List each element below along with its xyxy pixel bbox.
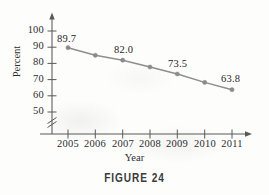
- x-tick-label-2005: 2005: [54, 138, 82, 149]
- percent-series-markers: [66, 46, 234, 92]
- data-point-2011: [230, 88, 234, 92]
- data-point-2007: [121, 58, 125, 62]
- data-label-2011: 63.8: [221, 73, 240, 84]
- y-axis-arrow-icon: [49, 13, 54, 20]
- figure-caption: FIGURE 24: [22, 171, 248, 185]
- data-label-2005: 89.7: [57, 33, 76, 44]
- y-tick-label-70: 70: [22, 73, 44, 84]
- y-tick-label-100: 100: [22, 24, 44, 35]
- y-tick-label-60: 60: [22, 89, 44, 100]
- y-tick-label-90: 90: [22, 40, 44, 51]
- x-tick-label-2010: 2010: [191, 138, 219, 149]
- x-tick-label-2009: 2009: [163, 138, 191, 149]
- x-tick-label-2011: 2011: [218, 138, 246, 149]
- data-label-2009: 73.5: [168, 58, 187, 69]
- y-tick-label-80: 80: [22, 56, 44, 67]
- data-point-2008: [148, 65, 152, 69]
- data-point-2010: [203, 80, 207, 84]
- data-point-2006: [93, 53, 97, 57]
- data-point-2009: [175, 72, 179, 76]
- data-label-2007: 82.0: [114, 44, 133, 55]
- figure-24-chart: 100 90 80 70 60 50 2005 2006 2007 2008 2…: [0, 0, 269, 195]
- data-point-2005: [66, 46, 70, 50]
- x-axis-title: Year: [0, 152, 269, 163]
- x-tick-label-2007: 2007: [109, 138, 137, 149]
- y-axis-title: Percent: [11, 32, 22, 92]
- x-tick-label-2008: 2008: [136, 138, 164, 149]
- x-tick-label-2006: 2006: [81, 138, 109, 149]
- x-axis-arrow-icon: [245, 131, 252, 136]
- y-tick-label-50: 50: [22, 105, 44, 116]
